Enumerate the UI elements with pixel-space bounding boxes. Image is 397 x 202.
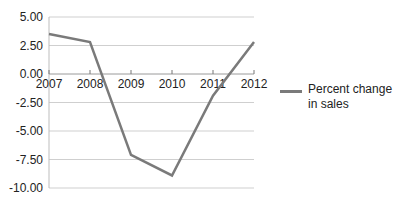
y-tick-label: 2.50: [20, 39, 44, 53]
x-tick-label: 2012: [241, 77, 268, 91]
legend-label: Percent change in sales: [308, 82, 397, 112]
gridlines: [49, 17, 254, 188]
series-line: [49, 34, 254, 175]
legend: Percent change in sales: [280, 82, 397, 112]
x-axis: 200720082009201020112012: [36, 70, 268, 91]
data-series: [49, 34, 254, 175]
y-tick-label: 5.00: [20, 10, 44, 24]
x-tick-label: 2007: [36, 77, 63, 91]
y-tick-label: -7.50: [16, 153, 44, 167]
x-tick-label: 2008: [77, 77, 104, 91]
y-tick-label: -10.00: [9, 181, 43, 195]
x-tick-label: 2010: [159, 77, 186, 91]
y-tick-label: -5.00: [16, 124, 44, 138]
x-tick-label: 2009: [118, 77, 145, 91]
legend-line-icon: [280, 90, 302, 93]
y-axis-labels: 5.002.500.00-2.50-5.00-7.50-10.00: [9, 10, 43, 195]
y-tick-label: -2.50: [16, 96, 44, 110]
